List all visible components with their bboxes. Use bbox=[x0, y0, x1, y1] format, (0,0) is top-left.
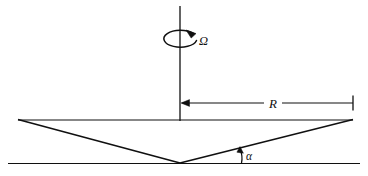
figure-container: Ω R α bbox=[0, 0, 368, 176]
cone-right-slant-line bbox=[180, 120, 353, 164]
angular-velocity-label: Ω bbox=[199, 34, 208, 48]
rotating-cone-diagram: Ω R α bbox=[0, 0, 368, 176]
cone-left-slant-line bbox=[18, 120, 180, 164]
radius-left-arrowhead bbox=[181, 100, 190, 107]
angle-label: α bbox=[246, 150, 253, 162]
radius-dimension-group bbox=[181, 96, 353, 111]
radius-label: R bbox=[268, 96, 277, 111]
